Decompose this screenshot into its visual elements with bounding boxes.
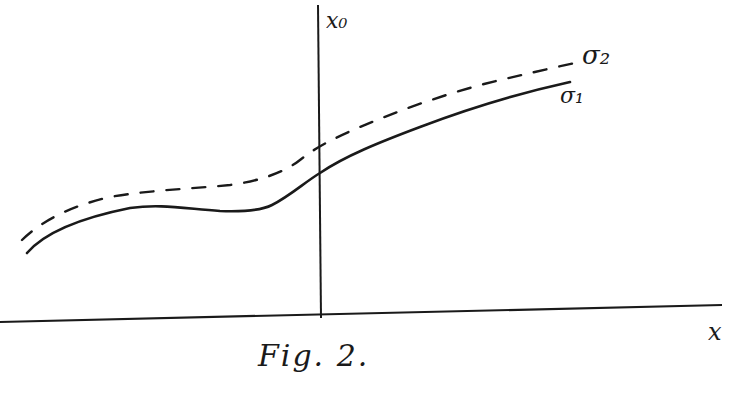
sigma2-label: σ₂ <box>582 40 610 70</box>
x-axis-label: x <box>708 318 722 346</box>
sigma1-curve <box>27 82 570 253</box>
x0-axis-label: x₀ <box>326 8 347 33</box>
sigma1-label: σ₁ <box>560 83 584 108</box>
x0-axis <box>318 5 321 318</box>
figure-caption: Fig. 2. <box>258 338 369 373</box>
x-axis <box>0 305 722 322</box>
